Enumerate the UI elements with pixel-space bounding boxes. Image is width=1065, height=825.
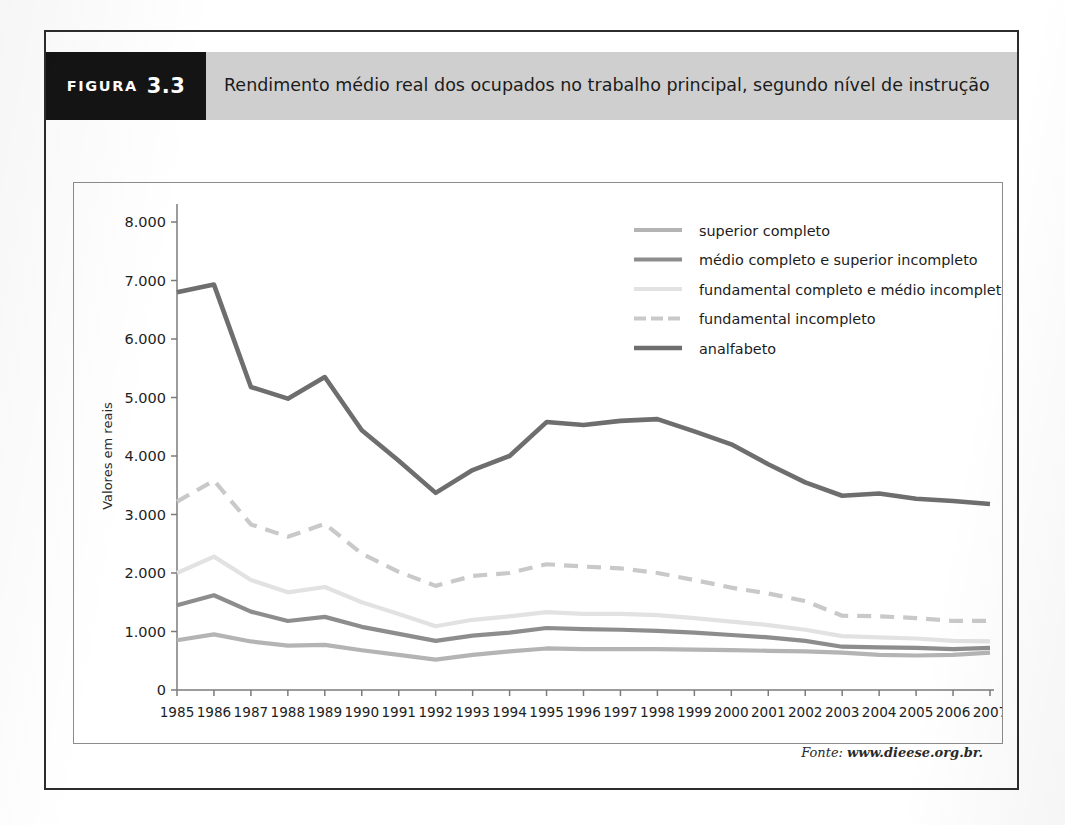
x-tick-label: 2003 — [825, 704, 860, 720]
x-tick-label: 1993 — [455, 704, 490, 720]
y-tick-label: 7.000 — [124, 273, 166, 289]
source-url: www.dieese.org.br. — [847, 745, 983, 760]
x-tick-label: 2002 — [788, 704, 823, 720]
x-tick-label: 1998 — [640, 704, 675, 720]
x-tick-label: 1997 — [603, 704, 638, 720]
y-tick-label: 3.000 — [124, 507, 166, 523]
x-tick-label: 1995 — [529, 704, 564, 720]
x-tick-label: 2005 — [899, 704, 934, 720]
x-tick-label: 1996 — [566, 704, 601, 720]
y-tick-label: 2.000 — [124, 565, 166, 581]
x-tick-label: 2004 — [862, 704, 897, 720]
y-tick-label: 4.000 — [124, 448, 166, 464]
chart-panel: 01.0002.0003.0004.0005.0006.0007.0008.00… — [73, 182, 1003, 744]
source-prefix: Fonte: — [801, 745, 843, 760]
figure-tag: FIGURA 3.3 — [46, 52, 206, 120]
x-tick-label: 1986 — [197, 704, 232, 720]
legend-label: médio completo e superior incompleto — [699, 252, 978, 268]
figure-tag-number: 3.3 — [147, 74, 185, 98]
x-tick-label: 1992 — [418, 704, 453, 720]
x-tick-label: 1987 — [234, 704, 269, 720]
y-tick-label: 5.000 — [124, 390, 166, 406]
x-tick-label: 2007 — [973, 704, 1002, 720]
x-tick-label: 1999 — [677, 704, 712, 720]
x-tick-label: 2000 — [714, 704, 749, 720]
legend-label: fundamental completo e médio incompleto — [699, 282, 1002, 298]
x-tick-label: 2001 — [751, 704, 786, 720]
y-tick-label: 0 — [157, 682, 166, 698]
legend-label: analfabeto — [699, 341, 776, 357]
x-tick-label: 1991 — [381, 704, 416, 720]
legend-label: superior completo — [699, 223, 830, 239]
y-tick-label: 1.000 — [124, 624, 166, 640]
series-line — [177, 595, 990, 649]
legend-label: fundamental incompleto — [699, 311, 876, 327]
y-tick-label: 6.000 — [124, 331, 166, 347]
line-chart: 01.0002.0003.0004.0005.0006.0007.0008.00… — [74, 183, 1002, 743]
x-tick-label: 1989 — [308, 704, 343, 720]
x-tick-label: 1994 — [492, 704, 527, 720]
series-line — [177, 481, 990, 621]
x-tick-label: 2006 — [936, 704, 971, 720]
x-tick-label: 1985 — [160, 704, 195, 720]
figure-title: Rendimento médio real dos ocupados no tr… — [206, 52, 1017, 120]
y-tick-label: 8.000 — [124, 214, 166, 230]
figure-source: Fonte: www.dieese.org.br. — [801, 745, 983, 760]
y-axis-title: Valores em reais — [100, 402, 115, 510]
figure-page: FIGURA 3.3 Rendimento médio real dos ocu… — [0, 0, 1065, 825]
x-tick-label: 1990 — [344, 704, 379, 720]
x-tick-label: 1988 — [271, 704, 306, 720]
figure-header: FIGURA 3.3 Rendimento médio real dos ocu… — [46, 52, 1017, 120]
figure-tag-word: FIGURA — [67, 78, 138, 94]
